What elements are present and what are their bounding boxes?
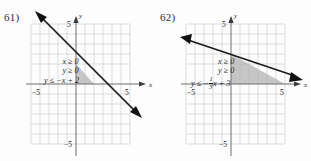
inequality-61-2: y ≥ 0 bbox=[62, 66, 79, 75]
x-axis-label-62: x bbox=[303, 81, 308, 89]
x-axis-label-61: x bbox=[148, 81, 153, 89]
y-tick-pos5-62: 5 bbox=[222, 20, 226, 29]
inequality-list-62: x ≥ 0 y ≥ 0 y ≤ −13x + 3 bbox=[218, 57, 234, 90]
y-axis-arrow-61 bbox=[73, 16, 78, 23]
y-axis-label-62: y bbox=[233, 12, 238, 20]
inequality-62-3: y ≤ −13x + 3 bbox=[191, 76, 234, 90]
y-tick-neg5-61: −5 bbox=[64, 140, 72, 149]
inequality-61-1: x ≥ 0 bbox=[62, 57, 79, 66]
problem-number-61: 61) bbox=[4, 11, 19, 23]
x-axis-arrow-61 bbox=[139, 81, 146, 86]
line-arrow-lower-right-62 bbox=[289, 72, 303, 82]
inequality-62-2: y ≥ 0 bbox=[218, 66, 234, 75]
y-axis-label-61: y bbox=[78, 12, 83, 20]
x-tick-pos5-62: 5 bbox=[280, 88, 284, 97]
inequality-list-61: x ≥ 0 y ≥ 0 y ≤ −x + 2 bbox=[62, 57, 79, 85]
inequality-62-3-prefix: y ≤ − bbox=[191, 79, 209, 88]
y-axis-arrow-62 bbox=[228, 16, 233, 23]
problem-panel-62: 62) bbox=[155, 0, 311, 161]
inequality-62-1: x ≥ 0 bbox=[218, 57, 234, 66]
x-tick-pos5-61: 5 bbox=[125, 88, 129, 97]
problem-panel-61: 61) bbox=[0, 0, 155, 161]
problem-number-62: 62) bbox=[160, 11, 175, 23]
y-tick-neg5-62: −5 bbox=[219, 140, 227, 149]
graph-61: x y −5 5 5 −5 bbox=[20, 10, 155, 158]
inequality-61-3: y ≤ −x + 2 bbox=[44, 76, 79, 85]
axes-61 bbox=[26, 18, 142, 156]
x-tick-neg5-61: −5 bbox=[32, 88, 40, 97]
worksheet-page: 61) bbox=[0, 0, 311, 161]
inequality-62-3-suffix: x + 3 bbox=[213, 79, 230, 88]
x-axis-arrow-62 bbox=[294, 81, 301, 86]
y-tick-pos5-61: 5 bbox=[67, 20, 71, 29]
